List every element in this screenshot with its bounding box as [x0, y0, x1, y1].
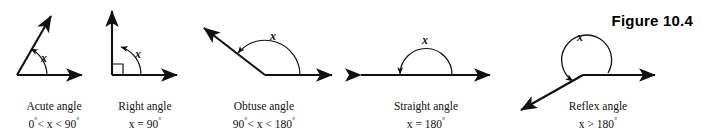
caption-reflex-angle: Reflex angle x > 180° [539, 100, 657, 131]
figure-number-label: Figure 10.4 [612, 12, 693, 29]
caption-reflex-title: Reflex angle [539, 100, 657, 114]
obtuse-angle-label: x [269, 29, 276, 43]
caption-straight-title: Straight angle [365, 100, 487, 114]
caption-acute-angle: Acute angle 0°< x < 90° [0, 100, 108, 131]
acute-angle-label: x [40, 51, 47, 65]
reflex-angle-label: x [576, 30, 583, 44]
caption-obtuse-angle: Obtuse angle 90°< x < 180° [203, 100, 325, 131]
caption-reflex-condition: x > 180° [539, 114, 657, 132]
diagram-reflex-angle: x [521, 30, 655, 110]
diagram-acute-angle: x [17, 16, 82, 75]
diagram-obtuse-angle: x [204, 28, 332, 75]
caption-right-angle: Right angle x = 90° [95, 100, 195, 131]
caption-right-condition: x = 90° [95, 114, 195, 132]
straight-angle-label: x [421, 33, 428, 47]
right-angle-square-marker [112, 64, 123, 75]
caption-right-title: Right angle [95, 100, 195, 114]
obtuse-diagonal-ray [204, 28, 265, 75]
obtuse-angle-arc [238, 40, 300, 75]
right-angle-label: x [134, 47, 141, 61]
caption-straight-condition: x = 180° [365, 114, 487, 132]
figure-10-4: x x x x x [0, 0, 701, 140]
caption-acute-title: Acute angle [0, 100, 108, 114]
caption-straight-angle: Straight angle x = 180° [365, 100, 487, 131]
diagram-straight-angle: x [361, 33, 490, 75]
caption-acute-condition: 0°< x < 90° [0, 114, 108, 132]
caption-obtuse-title: Obtuse angle [203, 100, 325, 114]
diagram-right-angle: x [112, 11, 177, 75]
straight-angle-arc [400, 49, 452, 75]
caption-obtuse-condition: 90°< x < 180° [203, 114, 325, 132]
